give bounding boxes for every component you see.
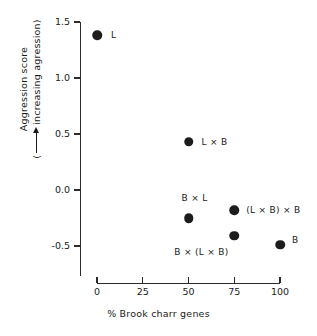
- y-axis-line: [80, 22, 81, 276]
- x-axis-tick: [96, 277, 97, 283]
- y-axis-title-caption: increasing agression): [31, 19, 42, 125]
- y-axis-title: Aggression score ( increasing agression): [13, 0, 47, 189]
- y-axis-title-line1: Aggression score: [18, 47, 29, 131]
- data-point: [230, 231, 240, 241]
- data-point: [184, 137, 194, 147]
- data-point-label: B × (L × B): [174, 248, 228, 257]
- data-point: [275, 240, 285, 250]
- y-axis-tick-label-text: 0.5: [55, 129, 70, 139]
- y-axis-tick-label-text: 1.0: [55, 73, 70, 83]
- x-axis-line: [97, 283, 280, 284]
- y-axis-tick: [74, 133, 80, 134]
- y-axis-tick-label-text: 0.0: [55, 185, 70, 195]
- y-axis-title-paren: (: [31, 155, 42, 159]
- data-point-label: (L × B) × B: [246, 206, 300, 215]
- x-axis-tick-label-text: 0: [94, 287, 100, 297]
- x-axis-tick: [279, 277, 280, 283]
- x-axis-tick-label-text: 50: [182, 287, 194, 297]
- y-axis-tick-label-text: 1.5: [55, 17, 70, 27]
- data-point-label: B × L: [182, 194, 208, 203]
- scatter-plot-figure: 1.51.00.50.0-0.5 0255075100 LL × BB × L(…: [0, 0, 317, 336]
- data-point: [230, 205, 240, 215]
- data-point-label: B: [292, 236, 298, 245]
- y-axis-tick: [74, 245, 80, 246]
- x-axis-tick-label-text: 25: [137, 287, 149, 297]
- x-axis-tick-label-text: 75: [228, 287, 240, 297]
- data-point: [184, 213, 194, 223]
- x-axis-title: % Brook charr genes: [0, 308, 317, 319]
- y-axis-tick: [74, 189, 80, 190]
- y-axis-tick: [74, 77, 80, 78]
- y-axis-tick: [74, 21, 80, 22]
- x-axis-tick: [234, 277, 235, 283]
- data-point: [92, 31, 102, 41]
- x-axis-tick: [142, 277, 143, 283]
- y-axis-title-line2: ( increasing agression): [31, 19, 42, 159]
- y-axis-tick-label-text: -0.5: [51, 241, 70, 251]
- x-axis-tick-label-text: 100: [271, 287, 289, 297]
- x-axis-tick: [188, 277, 189, 283]
- data-point-label: L: [111, 31, 116, 40]
- data-point-label: L × B: [202, 138, 228, 147]
- increasing-arrow-icon: [33, 127, 40, 153]
